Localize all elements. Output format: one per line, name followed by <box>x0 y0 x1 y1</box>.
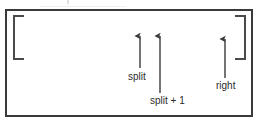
scan-artifact-smudge <box>40 6 126 7</box>
pointer-label-split: split <box>128 71 146 82</box>
array-frame <box>5 9 253 117</box>
pointer-label-right: right <box>216 80 235 91</box>
pointer-label-split-plus-1: split + 1 <box>150 95 185 106</box>
scan-artifact-speck <box>67 0 69 4</box>
diagram-canvas: split split + 1 right <box>0 0 259 122</box>
open-bracket-icon <box>13 15 24 60</box>
close-bracket-icon <box>235 15 246 60</box>
